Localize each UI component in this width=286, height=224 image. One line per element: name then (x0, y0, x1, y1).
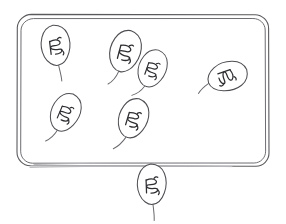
sketch-canvas (0, 0, 286, 224)
sketch-illustration (0, 0, 286, 224)
tag-7[interactable] (136, 163, 168, 221)
tag-7-stem (153, 204, 154, 220)
